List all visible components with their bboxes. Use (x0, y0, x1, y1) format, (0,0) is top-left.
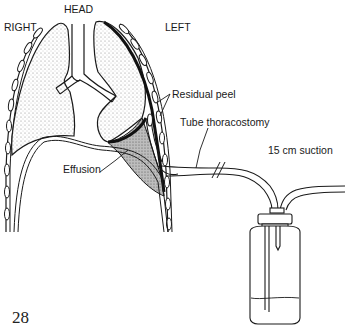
right-lung (12, 23, 75, 155)
figure-number: 28 (12, 309, 29, 326)
suction-tube (280, 186, 345, 210)
label-effusion: Effusion (63, 164, 101, 175)
drainage-tube (162, 162, 278, 210)
label-residual-peel: Residual peel (172, 89, 236, 100)
label-tube-thoracostomy: Tube thoracostomy (180, 117, 270, 128)
label-suction: 15 cm suction (268, 145, 333, 156)
label-right: RIGHT (4, 22, 37, 33)
thoracostomy-diagram (0, 0, 345, 334)
label-left: LEFT (165, 22, 191, 33)
drainage-bottle (250, 208, 300, 324)
label-head: HEAD (64, 4, 93, 15)
